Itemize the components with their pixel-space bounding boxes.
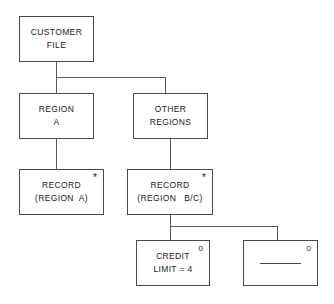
connector-to-blank-node [277,226,278,240]
node-other-regions[interactable]: OTHER REGIONS [133,93,208,139]
node-region-a-line-2: A [53,116,59,129]
node-record-region-bc-line-2: (REGION B/C) [137,192,202,205]
connector-to-credit-limit [170,226,171,240]
node-region-a-line-1: REGION [39,103,75,116]
node-record-region-a-line-2: (REGION A) [35,192,88,205]
connector-region-a-to-record [56,138,57,170]
node-credit-limit-line-2: LIMIT = 4 [153,263,192,276]
connector-to-region-a [56,77,57,94]
node-record-region-bc[interactable]: * RECORD (REGION B/C) [127,169,213,215]
asterisk-marker-record-region-bc: * [202,174,206,182]
node-customer-file-line-2: FILE [47,39,66,52]
node-customer-file[interactable]: CUSTOMER FILE [19,16,94,62]
node-record-region-a-line-1: RECORD [42,179,81,192]
node-credit-limit-line-1: CREDIT [156,250,190,263]
node-record-region-bc-line-1: RECORD [151,179,190,192]
node-blank[interactable]: 0 [243,240,318,286]
zero-marker-blank-node: 0 [307,245,311,253]
blank-content-rule [260,263,301,264]
node-credit-limit[interactable]: 0 CREDIT LIMIT = 4 [136,240,210,286]
diagram-canvas: CUSTOMER FILE REGION A OTHER REGIONS * R… [0,0,334,304]
connector-customer-file-stem [56,62,57,78]
node-region-a[interactable]: REGION A [19,93,94,139]
node-record-region-a[interactable]: * RECORD (REGION A) [19,169,104,215]
asterisk-marker-record-region-a: * [93,174,97,182]
node-customer-file-line-1: CUSTOMER [31,26,82,39]
connector-row1-bus [56,77,166,78]
node-other-regions-line-1: OTHER [155,103,187,116]
zero-marker-credit-limit: 0 [199,245,203,253]
node-other-regions-line-2: REGIONS [150,116,192,129]
connector-to-other-regions [165,77,166,94]
connector-row3-bus [170,226,278,227]
connector-other-regions-to-record [170,138,171,170]
